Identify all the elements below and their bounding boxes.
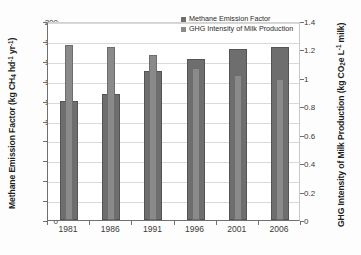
bar-ghg-1991 (149, 55, 157, 220)
y-axis-left-title-part2: hd (7, 62, 17, 75)
y-axis-right-tick-label: 1.2 (304, 46, 330, 55)
bar-ghg-1986 (107, 47, 115, 220)
y-axis-right-tick-label: 0.6 (304, 131, 330, 140)
y-axis-right-tick-label: 0.8 (304, 103, 330, 112)
bar-ghg-1996 (192, 68, 200, 220)
x-axis-tick-mark (258, 221, 259, 225)
y-axis-left-title-sup2: -1 (7, 41, 14, 46)
bar-ghg-1981 (65, 45, 73, 220)
x-axis-tick-mark (47, 221, 48, 225)
y-axis-right-tick-mark (300, 107, 304, 108)
y-axis-right-title-sup1: -1 (335, 45, 342, 50)
y-axis-right-title-part2: e L (336, 50, 346, 62)
y-axis-right-tick-label: 0.2 (304, 188, 330, 197)
x-axis-tick-label-2006: 2006 (269, 224, 288, 234)
y-axis-right-tick-label: 0 (304, 217, 330, 226)
bar-ghg-2006 (276, 79, 284, 220)
y-axis-right-tick-label: 0.4 (304, 160, 330, 169)
legend-swatch-icon-ghg (181, 27, 186, 32)
y-axis-left-title: Methane Emission Factor (kg CH4 hd-1 yr-… (7, 18, 18, 228)
y-axis-right-tick-mark (300, 50, 304, 51)
y-axis-right-tick-mark (300, 79, 304, 80)
gridline (48, 142, 299, 143)
y-axis-left-title-sub1: 4 (10, 74, 17, 77)
y-axis-right-title-sub1: 2 (339, 62, 346, 65)
y-axis-right-tick-mark (300, 22, 304, 23)
x-axis-tick-label-1991: 1991 (143, 224, 162, 234)
gridline (48, 182, 299, 183)
y-axis-left-title-sup1: -1 (7, 56, 14, 61)
legend-item-methane: Methane Emission Factor (181, 14, 293, 24)
chart-legend: Methane Emission Factor GHG Intensity of… (181, 14, 293, 34)
legend-label-methane: Methane Emission Factor (189, 14, 271, 24)
legend-label-ghg: GHG Intensity of Milk Production (189, 24, 293, 34)
gridline (48, 202, 299, 203)
y-axis-right-title-part3: milk) (336, 23, 346, 45)
x-axis-tick-label-1996: 1996 (185, 224, 204, 234)
gridline (48, 162, 299, 163)
y-axis-right-tick-label: 1 (304, 74, 330, 83)
y-axis-left-title-part1: Methane Emission Factor (kg CH (7, 78, 17, 209)
plot-area (47, 22, 300, 221)
y-axis-right-tick-label: 1.4 (304, 18, 330, 27)
x-axis-tick-label-2001: 2001 (227, 224, 246, 234)
x-axis-tick-mark (174, 221, 175, 225)
legend-swatch-icon-methane (181, 17, 186, 22)
y-axis-right-title-part1: GHG Intensity of Milk Production (kg CO (336, 66, 346, 227)
x-axis-tick-mark (89, 221, 90, 225)
x-axis-tick-label-1981: 1981 (59, 224, 78, 234)
y-axis-left-title-part4: ) (7, 38, 17, 41)
gridline (48, 103, 299, 104)
gridline (48, 63, 299, 64)
x-axis-tick-label-1986: 1986 (101, 224, 120, 234)
x-axis-tick-mark (300, 221, 301, 225)
gridline (48, 123, 299, 124)
x-axis-tick-mark (216, 221, 217, 225)
legend-item-ghg: GHG Intensity of Milk Production (181, 24, 293, 34)
gridline (48, 83, 299, 84)
y-axis-right-tick-mark (300, 164, 304, 165)
y-axis-right-tick-mark (300, 193, 304, 194)
y-axis-left-title-part3: yr (7, 46, 17, 56)
gridline (48, 43, 299, 44)
y-axis-right-tick-mark (300, 136, 304, 137)
chart-figure: Methane Emission Factor (kg CH4 hd-1 yr-… (0, 0, 361, 255)
y-axis-right-title: GHG Intensity of Milk Production (kg CO2… (334, 20, 348, 230)
x-axis-tick-mark (131, 221, 132, 225)
bar-ghg-2001 (234, 75, 242, 220)
